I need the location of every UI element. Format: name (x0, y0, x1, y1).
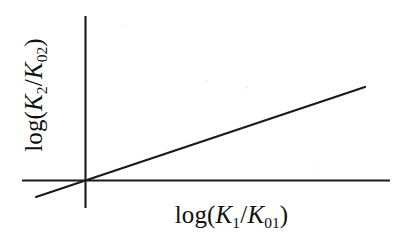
x-label-denominator-sub: 01 (264, 214, 280, 231)
y-label-numerator-sub: 2 (32, 87, 49, 95)
y-label-slash: / (20, 79, 47, 87)
figure-container: log(K1/K01) log(K2/K02) (0, 0, 411, 244)
x-label-slash: / (240, 201, 248, 228)
x-axis-label: log(K1/K01) (0, 202, 411, 227)
y-label-denominator-var: K (20, 62, 47, 79)
x-label-denominator-var: K (248, 201, 265, 228)
y-label-prefix: log( (20, 111, 47, 152)
y-label-denominator-sub: 02 (32, 47, 49, 63)
x-label-numerator-sub: 1 (232, 214, 240, 231)
x-label-numerator-var: K (215, 201, 232, 228)
y-label-numerator-var: K (20, 94, 47, 111)
x-label-prefix: log( (175, 201, 216, 228)
y-label-suffix: ) (20, 38, 47, 46)
y-axis-label: log(K2/K02) (21, 38, 46, 151)
x-label-suffix: ) (280, 201, 288, 228)
